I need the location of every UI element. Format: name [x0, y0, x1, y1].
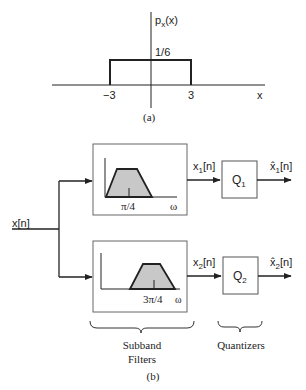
- x-left-tick-label: −3: [103, 89, 116, 101]
- filter2-omega-label: ω: [175, 294, 182, 305]
- filter1-center-label: π/4: [121, 200, 136, 212]
- filters-caption-line1: Subband: [123, 339, 162, 351]
- input-node: x[n]: [12, 181, 92, 277]
- diagram-canvas: px(x) 1/6 −3 3 x (a) x[n] π/4 ω 3π/4 ω x…: [0, 0, 306, 390]
- subband-filter-2: 3π/4 ω: [93, 241, 187, 312]
- caption-b: (b): [147, 370, 160, 383]
- branch-1: x1[n] Q1 x̂1[n]: [187, 160, 292, 198]
- subband-filter-1: π/4 ω: [93, 144, 187, 215]
- quantizers-caption: Quantizers: [217, 339, 265, 351]
- filter1-omega-label: ω: [170, 200, 177, 212]
- input-label: x[n]: [12, 217, 30, 229]
- filters-caption-line2: Filters: [128, 353, 156, 365]
- captions-b: Subband Filters Quantizers (b): [90, 321, 265, 383]
- caption-a: (a): [143, 111, 156, 124]
- x-right-tick-label: 3: [188, 89, 194, 101]
- x1-hat-label: x̂1[n]: [270, 160, 292, 175]
- x2-hat-label: x̂2[n]: [270, 256, 292, 271]
- filters-brace: [90, 321, 194, 333]
- filter2-center-label: 3π/4: [143, 293, 163, 305]
- branch-2: x2[n] Q2 x̂2[n]: [187, 256, 292, 294]
- x2-label: x2[n]: [193, 256, 215, 271]
- x1-label: x1[n]: [193, 160, 215, 175]
- quantizers-brace: [218, 321, 262, 332]
- x-axis-label: x: [257, 89, 263, 101]
- pdf-plot: px(x) 1/6 −3 3 x (a): [52, 12, 265, 124]
- height-label: 1/6: [155, 46, 170, 58]
- y-axis-label: px(x): [155, 14, 178, 29]
